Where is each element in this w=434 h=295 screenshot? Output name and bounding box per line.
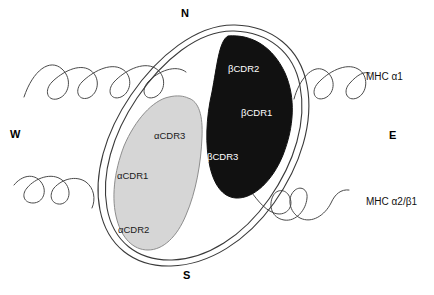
compass-label-south: S — [183, 269, 191, 281]
figure-canvas: N S W E MHC α1 MHC α2/β1 βCDR2 βCDR1 βCD… — [0, 0, 434, 295]
compass-label-east: E — [389, 129, 397, 141]
diagram-svg — [0, 0, 434, 295]
cdr-label-beta-cdr1: βCDR1 — [241, 107, 272, 118]
mhc-alpha2beta1-helix-right — [247, 186, 349, 220]
compass-label-west: W — [10, 128, 21, 140]
mhc-alpha1-helix-left — [24, 65, 186, 99]
mhc-alpha1-helix-right — [294, 67, 370, 99]
cdr-label-alpha-cdr2: αCDR2 — [118, 224, 149, 235]
mhc-alpha2-beta1-label: MHC α2/β1 — [366, 196, 417, 207]
compass-label-north: N — [181, 7, 189, 19]
cdr-label-beta-cdr3: βCDR3 — [207, 151, 238, 162]
cdr-label-alpha-cdr1: αCDR1 — [117, 170, 148, 181]
cdr-label-alpha-cdr3: αCDR3 — [154, 130, 185, 141]
mhc-alpha2beta1-helix-left — [14, 176, 94, 208]
cdr-label-beta-cdr2: βCDR2 — [228, 63, 259, 74]
mhc-alpha1-label: MHC α1 — [366, 71, 403, 82]
